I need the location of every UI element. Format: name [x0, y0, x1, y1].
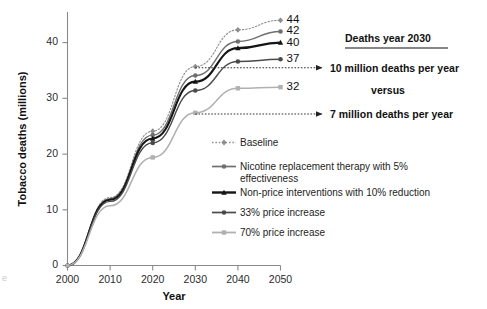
y-axis-title: Tobacco deaths (millions) [16, 71, 28, 206]
legend-item-6[interactable]: 70% price increase [212, 227, 325, 238]
chart-legend: BaselineNicotine replacement therapy wit… [212, 137, 430, 238]
legend-swatch-marker [222, 210, 227, 215]
upper-annotation-label: 10 million deaths per year [330, 62, 459, 74]
figure-corner-mark: e [2, 273, 7, 283]
data-point [66, 264, 70, 268]
data-point [236, 39, 241, 44]
x-tick-label-2000: 2000 [56, 273, 80, 285]
legend-swatch-marker [222, 164, 227, 169]
annotation-block: Deaths year 2030 10 million deaths per y… [330, 32, 459, 120]
data-point [236, 59, 241, 64]
data-point [193, 73, 198, 78]
legend-item-3[interactable]: effectiveness [240, 173, 298, 184]
data-point [151, 155, 155, 159]
end-value-label: 32 [287, 80, 300, 92]
y-tick-label-0: 0 [52, 258, 58, 270]
end-value-labels: 4442403732 [287, 13, 300, 92]
y-tick-label-20: 20 [46, 147, 58, 159]
data-point [236, 86, 240, 90]
y-axis-ticks [63, 43, 68, 266]
legend-item-label: Baseline [240, 137, 279, 148]
data-point [150, 141, 155, 146]
x-tick-label-2050: 2050 [269, 273, 293, 285]
end-value-label: 40 [287, 36, 300, 48]
data-point [278, 85, 282, 89]
y-axis: 0 10 20 30 40 Tobacco deaths (millions) [16, 12, 68, 270]
lower-annotation-label: 7 million deaths per year [330, 108, 453, 120]
annotation-heading: Deaths year 2030 [345, 32, 431, 44]
data-point [193, 64, 198, 70]
y-tick-label-40: 40 [46, 35, 58, 47]
y-tick-label-10: 10 [46, 203, 58, 215]
legend-swatch-marker [221, 140, 226, 146]
legend-item-2[interactable]: Nicotine replacement therapy with 5% [212, 161, 408, 172]
legend-item-label: 33% price increase [240, 207, 325, 218]
chart-svg: 0 10 20 30 40 Tobacco deaths (millions) … [0, 0, 487, 309]
data-point [278, 17, 283, 23]
legend-item-label: Non-price interventions with 10% reducti… [240, 187, 430, 198]
x-tick-label-2040: 2040 [226, 273, 250, 285]
legend-item-label: effectiveness [240, 173, 298, 184]
y-tick-label-30: 30 [46, 91, 58, 103]
legend-item-label: Nicotine replacement therapy with 5% [240, 161, 408, 172]
end-value-label: 37 [287, 52, 300, 64]
tobacco-deaths-chart: 0 10 20 30 40 Tobacco deaths (millions) … [0, 0, 487, 309]
data-point [235, 27, 240, 33]
versus-label: versus [371, 84, 405, 96]
x-axis: 2000 2010 2020 2030 2040 2050 Year [56, 266, 293, 303]
x-tick-label-2010: 2010 [98, 273, 122, 285]
legend-item-1[interactable]: Baseline [212, 137, 279, 148]
legend-item-5[interactable]: 33% price increase [212, 207, 325, 218]
x-axis-title: Year [162, 290, 186, 302]
legend-swatch-marker [222, 230, 226, 234]
x-tick-label-2020: 2020 [141, 273, 165, 285]
data-point [193, 88, 198, 93]
legend-item-4[interactable]: Non-price interventions with 10% reducti… [212, 187, 430, 198]
x-tick-label-2030: 2030 [184, 273, 208, 285]
legend-item-label: 70% price increase [240, 227, 325, 238]
annotation-arrows [195, 68, 322, 114]
data-point [278, 57, 283, 62]
x-axis-ticks [68, 266, 281, 271]
data-point [278, 29, 283, 34]
